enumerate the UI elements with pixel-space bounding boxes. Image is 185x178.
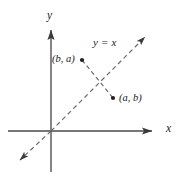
point-a-b-label: (a, b)	[119, 93, 142, 104]
coordinate-plane-figure: y x (b, a) (a, b) y = x	[0, 0, 185, 178]
x-axis-label: x	[166, 123, 171, 135]
point-a-b-dot	[111, 96, 115, 100]
reflection-segment	[82, 60, 113, 98]
line-y-equals-x-upper	[51, 37, 145, 131]
figure-canvas	[0, 0, 185, 178]
point-b-a-dot	[80, 58, 84, 62]
line-y-equals-x-lower	[20, 131, 51, 160]
point-b-a-label: (b, a)	[52, 54, 75, 65]
y-axis-label: y	[47, 10, 52, 22]
line-equation-label: y = x	[93, 37, 117, 48]
